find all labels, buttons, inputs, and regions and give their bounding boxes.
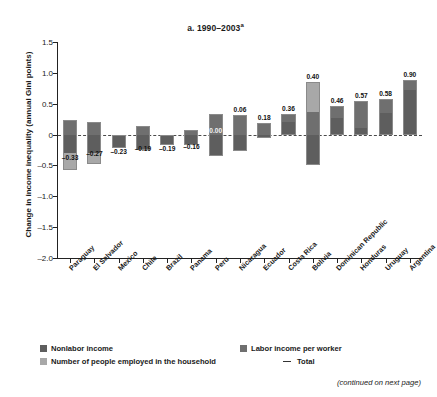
bar-value-label: 0.36 <box>282 105 295 112</box>
chart-legend: Nonlabor income Labor income per worker … <box>40 344 410 370</box>
bar-value-label: 0.46 <box>331 97 344 104</box>
legend-item-nonlabor-income: Nonlabor income <box>40 344 113 353</box>
chart-title-superscript: a <box>240 22 243 28</box>
bar-value-label: 0.40 <box>306 73 319 80</box>
bar-value-label: –0.19 <box>159 145 176 152</box>
continued-note: (continued on next page) <box>337 378 421 387</box>
bar-outline <box>257 123 271 138</box>
y-tick-label: 1.0 <box>27 68 53 77</box>
y-tick-label: 0.5 <box>27 99 53 108</box>
bar-outline <box>330 106 344 134</box>
bar-outline <box>306 82 320 165</box>
chart-title-text: a. 1990–2003 <box>187 23 240 33</box>
bar-value-label: –0.16 <box>183 143 200 150</box>
bar-value-label: 0.00 <box>209 127 222 134</box>
bar-outline <box>63 120 77 170</box>
bar-value-label: –0.27 <box>86 150 103 157</box>
bar-value-label: –0.23 <box>110 148 127 155</box>
y-tick-label: 1.5 <box>27 38 53 47</box>
bar-group[interactable] <box>354 42 368 258</box>
legend-swatch-icon-employed <box>40 358 47 365</box>
bar-outline <box>403 80 417 135</box>
bar-value-label: –0.33 <box>62 154 79 161</box>
bar-group[interactable] <box>209 42 223 258</box>
bar-value-label: 0.18 <box>258 114 271 121</box>
bar-value-label: 0.58 <box>379 90 392 97</box>
bar-value-label: 0.57 <box>355 92 368 99</box>
bar-outline <box>209 114 223 156</box>
legend-label-employed: Number of people employed in the househo… <box>51 357 216 366</box>
bar-value-label: 0.90 <box>403 71 416 78</box>
bar-group[interactable] <box>330 42 344 258</box>
legend-swatch-icon-labor <box>240 345 247 352</box>
bar-group[interactable] <box>257 42 271 258</box>
y-tick-mark <box>53 258 58 259</box>
bar-outline <box>160 135 174 145</box>
y-tick-label: –0.5 <box>27 161 53 170</box>
legend-swatch-icon-nonlabor <box>40 345 47 352</box>
bar-value-label: 0.06 <box>234 106 247 113</box>
legend-item-people-employed: Number of people employed in the househo… <box>40 357 216 366</box>
bar-outline <box>112 135 126 149</box>
bar-group[interactable] <box>63 42 77 258</box>
y-tick-label: 0 <box>27 130 53 139</box>
legend-dash-icon-total <box>283 361 291 362</box>
legend-item-labor-income: Labor income per worker <box>240 344 342 353</box>
y-tick-label: –2.0 <box>27 254 53 263</box>
bar-outline <box>281 114 295 135</box>
legend-label-total: Total <box>297 357 315 366</box>
bar-outline <box>379 99 393 134</box>
bar-outline <box>233 115 247 151</box>
y-tick-label: –1.0 <box>27 192 53 201</box>
bar-outline <box>87 122 101 165</box>
bar-group[interactable] <box>281 42 295 258</box>
bar-outline <box>354 101 368 135</box>
y-tick-label: –1.5 <box>27 223 53 232</box>
bar-value-label: –0.19 <box>135 145 152 152</box>
legend-label-nonlabor: Nonlabor income <box>51 344 113 353</box>
bar-group[interactable] <box>233 42 247 258</box>
chart-title: a. 1990–2003a <box>0 22 431 33</box>
legend-label-labor: Labor income per worker <box>251 344 342 353</box>
legend-item-total: Total <box>283 357 315 366</box>
